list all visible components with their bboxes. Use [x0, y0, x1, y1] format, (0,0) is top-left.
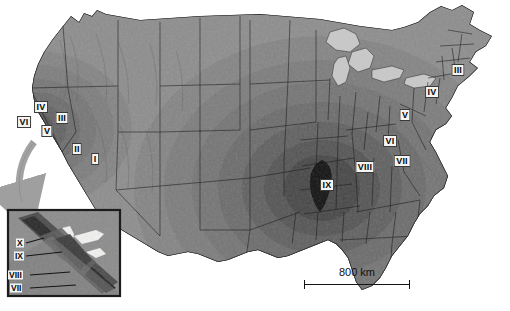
iso-label-east-VIII: VIII	[355, 161, 374, 173]
map-graphic	[0, 0, 510, 311]
iso-label-east-IV: IV	[425, 86, 439, 98]
iso-label-west-VI: VI	[17, 116, 31, 128]
iso-label-east-V: V	[399, 109, 410, 121]
scale-bar-tick-right	[409, 280, 410, 289]
inset-callout-arrow	[19, 142, 34, 202]
inset-map-graphic	[9, 211, 119, 295]
iso-label-east-VI: VI	[383, 135, 397, 147]
scale-bar-tick-left	[304, 280, 305, 289]
inset-label-VII: VII	[10, 284, 22, 293]
iso-label-east-IX: IX	[320, 179, 334, 191]
iso-label-east-VII: VII	[394, 155, 411, 167]
iso-label-west-V: V	[41, 125, 52, 137]
inset-label-IX: IX	[14, 252, 24, 261]
iso-label-east-III: III	[451, 64, 464, 76]
scale-bar-label: 800 km	[296, 266, 418, 279]
iso-label-west-I: I	[91, 153, 99, 165]
inset-label-VIII: VIII	[8, 271, 23, 280]
seismic-intensity-map: IV VI III V II I III IV V VI VII VIII IX…	[0, 0, 510, 311]
inset-label-X: X	[16, 239, 24, 248]
iso-label-west-III: III	[55, 112, 68, 124]
iso-label-west-II: II	[72, 143, 82, 155]
scale-bar-rule	[296, 280, 418, 289]
scale-bar: 800 km	[296, 266, 418, 289]
scale-bar-line	[304, 284, 410, 285]
iso-label-west-IV: IV	[34, 101, 48, 113]
